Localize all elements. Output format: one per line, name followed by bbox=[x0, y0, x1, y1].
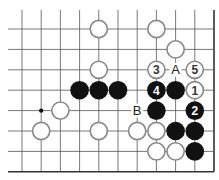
move-number: 5 bbox=[191, 63, 198, 77]
white-stone bbox=[33, 122, 50, 139]
white-stone: 5 bbox=[186, 61, 203, 78]
go-board-diagram: AB 35412 bbox=[0, 0, 219, 180]
black-stone bbox=[90, 81, 109, 100]
point-label-b: B bbox=[133, 103, 142, 118]
move-number: 3 bbox=[153, 63, 160, 77]
white-stone bbox=[148, 122, 165, 139]
white-stone bbox=[148, 20, 165, 37]
black-stone bbox=[109, 81, 128, 100]
black-stone bbox=[186, 142, 205, 161]
white-stone bbox=[90, 61, 107, 78]
white-stone bbox=[148, 143, 165, 160]
star-point bbox=[39, 108, 43, 112]
black-stone bbox=[147, 101, 166, 120]
white-stone: 1 bbox=[186, 82, 203, 99]
white-stone bbox=[129, 122, 146, 139]
black-stone bbox=[166, 81, 185, 100]
white-stone bbox=[90, 20, 107, 37]
black-stone bbox=[186, 122, 205, 141]
black-stone bbox=[166, 122, 185, 141]
point-label-a: A bbox=[171, 62, 180, 77]
move-number: 2 bbox=[191, 104, 198, 118]
move-number: 1 bbox=[191, 84, 198, 98]
white-stone: 3 bbox=[148, 61, 165, 78]
star-points bbox=[39, 108, 43, 112]
white-stone bbox=[167, 143, 184, 160]
white-stone bbox=[167, 41, 184, 58]
white-stone bbox=[52, 102, 69, 119]
white-stone bbox=[90, 122, 107, 139]
move-number: 4 bbox=[153, 84, 160, 98]
black-stone bbox=[70, 81, 89, 100]
go-board-svg: AB 35412 bbox=[0, 0, 219, 180]
black-stone: 2 bbox=[186, 101, 205, 120]
black-stone: 4 bbox=[147, 81, 166, 100]
